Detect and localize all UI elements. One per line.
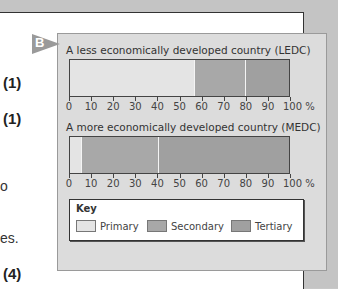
text-fragment: o — [0, 178, 8, 194]
tick-label: 100 % — [283, 101, 315, 112]
tick-label: 0 — [66, 101, 72, 112]
bar-segment-tertiary — [158, 137, 289, 173]
stacked-bar-ledc — [69, 59, 290, 97]
legend-label: Tertiary — [255, 221, 293, 232]
legend-item-tertiary: Tertiary — [231, 220, 293, 232]
tick-label: 80 — [239, 178, 252, 189]
tick-label: 10 — [85, 178, 98, 189]
tick-label: 20 — [107, 178, 120, 189]
top-margin — [0, 0, 338, 12]
legend-item-secondary: Secondary — [147, 220, 224, 232]
tick-label: 60 — [195, 178, 208, 189]
tick-label: 60 — [195, 101, 208, 112]
legend-swatch-tertiary — [231, 220, 251, 232]
legend-swatch-secondary — [147, 220, 167, 232]
tick-label: 10 — [85, 101, 98, 112]
tick-label: 80 — [239, 101, 252, 112]
legend-item-primary: Primary — [76, 220, 139, 232]
mark-2: (1) — [3, 110, 21, 127]
tick-label: 20 — [107, 101, 120, 112]
mark-1: (1) — [3, 74, 21, 91]
tick-label: 90 — [262, 178, 275, 189]
tick-label: 70 — [217, 101, 230, 112]
tick-label: 50 — [173, 101, 186, 112]
tick-label: 40 — [151, 178, 164, 189]
chart-title-medc: A more economically developed country (M… — [66, 121, 321, 133]
bar-segment-secondary — [81, 137, 158, 173]
tick-label: 30 — [129, 178, 142, 189]
bar-segment-secondary — [194, 60, 245, 96]
legend-label: Primary — [100, 221, 139, 232]
bar-segment-tertiary — [245, 60, 289, 96]
tick-label: 90 — [262, 101, 275, 112]
tick-label: 70 — [217, 178, 230, 189]
tick-label: 100 % — [283, 178, 315, 189]
chart-title-ledc: A less economically developed country (L… — [66, 44, 311, 56]
x-axis-ledc: 0 10 20 30 40 50 60 70 80 90 100 % — [69, 97, 290, 111]
tick-label: 40 — [151, 101, 164, 112]
tick-label: 30 — [129, 101, 142, 112]
legend-label: Secondary — [171, 221, 224, 232]
stacked-bar-medc — [69, 136, 290, 174]
bar-segment-primary — [70, 60, 194, 96]
text-fragment: es. — [0, 230, 19, 246]
tick-label: 50 — [173, 178, 186, 189]
figure-label: B — [35, 35, 44, 50]
tick-label: 0 — [66, 178, 72, 189]
chart-legend: Key Primary Secondary Tertiary — [69, 199, 304, 241]
legend-swatch-primary — [76, 220, 96, 232]
bar-segment-primary — [70, 137, 81, 173]
legend-title: Key — [76, 203, 97, 214]
x-axis-medc: 0 10 20 30 40 50 60 70 80 90 100 % — [69, 174, 290, 188]
mark-3: (4) — [3, 265, 21, 282]
